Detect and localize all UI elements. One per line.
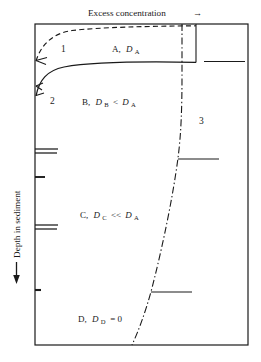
top-axis-label: Excess concentration	[88, 8, 166, 18]
concentration-depth-figure: Excess concentration → Depth in sediment	[0, 0, 261, 362]
left-axis-label: Depth in sediment	[12, 190, 22, 258]
region-c-subscript-2: A	[134, 214, 139, 221]
region-d-symbol: D	[91, 314, 99, 324]
region-b-symbol: D	[95, 97, 103, 107]
region-b-subscript: B	[104, 101, 109, 108]
region-label-c: C, D C << D A	[80, 210, 139, 222]
region-a-prefix: A,	[112, 44, 121, 54]
region-d-subscript: D	[101, 318, 106, 325]
region-c-prefix: C,	[80, 210, 88, 220]
curve-3-dashdot	[132, 24, 182, 345]
region-b-symbol-2: D	[121, 97, 129, 107]
region-label-a: A, D A	[112, 44, 140, 55]
region-b-subscript-2: A	[131, 101, 136, 108]
svg-text:A, D A: A, D A	[112, 44, 140, 55]
region-d-prefix: D,	[78, 314, 87, 324]
region-c-relation: <<	[111, 210, 121, 220]
svg-text:B, D B: B, D B < D A	[82, 97, 136, 109]
region-d-relation: = 0	[110, 314, 122, 324]
depth-arrow-icon	[13, 262, 20, 284]
top-axis-arrow-icon: →	[193, 8, 202, 18]
curve-number-1: 1	[61, 44, 66, 54]
region-a-subscript: A	[135, 48, 140, 55]
region-b-relation: <	[113, 97, 118, 107]
region-c-subscript: C	[102, 214, 107, 221]
plot-frame	[35, 24, 248, 345]
depth-crossbar-markers	[151, 62, 245, 293]
region-label-d: D, D D = 0	[78, 314, 123, 326]
region-c-symbol: D	[93, 210, 101, 220]
figure-root: Excess concentration → Depth in sediment	[0, 0, 261, 362]
left-axis-tick-marks	[35, 58, 58, 291]
region-c-symbol-2: D	[124, 210, 132, 220]
region-b-prefix: B,	[82, 97, 90, 107]
curve-2-solid	[36, 62, 196, 96]
region-label-b: B, D B < D A	[82, 97, 136, 109]
svg-text:D, D D: D, D D = 0	[78, 314, 123, 326]
curve-number-2: 2	[50, 96, 55, 106]
svg-text:C, D C: C, D C << D A	[80, 210, 139, 222]
region-a-symbol: D	[125, 44, 133, 54]
curve-number-3: 3	[199, 116, 204, 126]
